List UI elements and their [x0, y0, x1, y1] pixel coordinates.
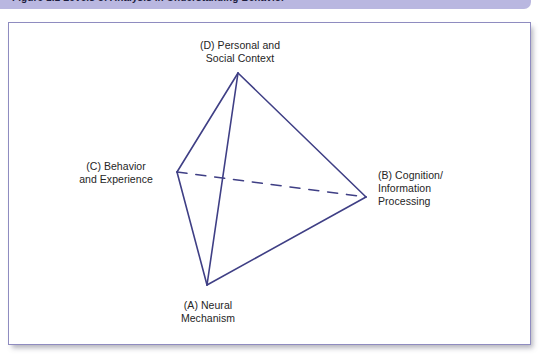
vertex-label-b: (B) Cognition/ Information Processing [378, 169, 498, 208]
vertex-label-a: (A) Neural Mechanism [152, 299, 264, 325]
figure-caption-text: Figure 1.1 Levels of Analysis in Underst… [12, 0, 285, 3]
vertex-label-d: (D) Personal and Social Context [181, 39, 299, 65]
figure-caption-bar: Figure 1.1 Levels of Analysis in Underst… [0, 0, 531, 9]
vertex-label-c: (C) Behavior and Experience [60, 160, 172, 186]
